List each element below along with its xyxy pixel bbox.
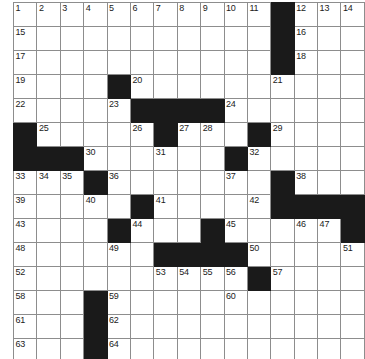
- crossword-cell[interactable]: 32: [247, 147, 270, 171]
- crossword-cell[interactable]: [341, 99, 365, 123]
- crossword-cell[interactable]: 30: [84, 147, 107, 171]
- crossword-cell[interactable]: [60, 27, 83, 51]
- crossword-cell[interactable]: 56: [224, 267, 247, 291]
- crossword-cell[interactable]: 63: [14, 339, 37, 359]
- crossword-cell[interactable]: [130, 339, 153, 359]
- crossword-cell[interactable]: [318, 27, 341, 51]
- crossword-cell[interactable]: [341, 75, 365, 99]
- crossword-cell[interactable]: 9: [201, 3, 224, 27]
- crossword-cell[interactable]: [107, 147, 130, 171]
- crossword-cell[interactable]: 44: [130, 219, 153, 243]
- crossword-cell[interactable]: [341, 51, 365, 75]
- crossword-cell[interactable]: [154, 75, 177, 99]
- crossword-cell[interactable]: [341, 123, 365, 147]
- crossword-cell[interactable]: [318, 267, 341, 291]
- crossword-cell[interactable]: [177, 75, 200, 99]
- crossword-cell[interactable]: 49: [107, 243, 130, 267]
- crossword-cell[interactable]: [60, 195, 83, 219]
- crossword-cell[interactable]: 54: [177, 267, 200, 291]
- crossword-cell[interactable]: 47: [318, 219, 341, 243]
- crossword-cell[interactable]: [318, 243, 341, 267]
- crossword-cell[interactable]: [294, 339, 317, 359]
- crossword-cell[interactable]: 48: [14, 243, 37, 267]
- crossword-cell[interactable]: 6: [130, 3, 153, 27]
- crossword-cell[interactable]: [107, 123, 130, 147]
- crossword-cell[interactable]: 7: [154, 3, 177, 27]
- crossword-cell[interactable]: [318, 339, 341, 359]
- crossword-cell[interactable]: [130, 51, 153, 75]
- crossword-cell[interactable]: [294, 243, 317, 267]
- crossword-cell[interactable]: [84, 99, 107, 123]
- crossword-cell[interactable]: [341, 27, 365, 51]
- crossword-cell[interactable]: [177, 315, 200, 339]
- crossword-cell[interactable]: [37, 243, 60, 267]
- crossword-cell[interactable]: 46: [294, 219, 317, 243]
- crossword-cell[interactable]: [341, 291, 365, 315]
- crossword-cell[interactable]: 50: [247, 243, 270, 267]
- crossword-cell[interactable]: 40: [84, 195, 107, 219]
- crossword-cell[interactable]: 35: [60, 171, 83, 195]
- crossword-cell[interactable]: [60, 123, 83, 147]
- crossword-cell[interactable]: [60, 267, 83, 291]
- crossword-cell[interactable]: [247, 99, 270, 123]
- crossword-cell[interactable]: 25: [37, 123, 60, 147]
- crossword-cell[interactable]: [107, 27, 130, 51]
- crossword-cell[interactable]: [224, 315, 247, 339]
- crossword-cell[interactable]: [247, 339, 270, 359]
- crossword-cell[interactable]: [177, 219, 200, 243]
- crossword-cell[interactable]: [37, 315, 60, 339]
- crossword-cell[interactable]: 27: [177, 123, 200, 147]
- crossword-cell[interactable]: [60, 99, 83, 123]
- crossword-cell[interactable]: 2: [37, 3, 60, 27]
- crossword-cell[interactable]: 43: [14, 219, 37, 243]
- crossword-cell[interactable]: [37, 27, 60, 51]
- crossword-cell[interactable]: 3: [60, 3, 83, 27]
- crossword-cell[interactable]: 31: [154, 147, 177, 171]
- crossword-cell[interactable]: [224, 51, 247, 75]
- crossword-cell[interactable]: 36: [107, 171, 130, 195]
- crossword-cell[interactable]: [154, 315, 177, 339]
- crossword-cell[interactable]: 64: [107, 339, 130, 359]
- crossword-cell[interactable]: 22: [14, 99, 37, 123]
- crossword-cell[interactable]: [247, 171, 270, 195]
- crossword-cell[interactable]: [84, 243, 107, 267]
- crossword-cell[interactable]: [201, 27, 224, 51]
- crossword-cell[interactable]: [130, 171, 153, 195]
- crossword-cell[interactable]: [60, 243, 83, 267]
- crossword-cell[interactable]: [60, 315, 83, 339]
- crossword-cell[interactable]: 11: [247, 3, 270, 27]
- crossword-cell[interactable]: 45: [224, 219, 247, 243]
- crossword-cell[interactable]: [201, 171, 224, 195]
- crossword-cell[interactable]: [154, 27, 177, 51]
- crossword-cell[interactable]: [201, 339, 224, 359]
- crossword-cell[interactable]: [294, 99, 317, 123]
- crossword-cell[interactable]: [224, 339, 247, 359]
- crossword-cell[interactable]: [84, 123, 107, 147]
- crossword-cell[interactable]: 53: [154, 267, 177, 291]
- crossword-cell[interactable]: 39: [14, 195, 37, 219]
- crossword-cell[interactable]: [130, 315, 153, 339]
- crossword-cell[interactable]: [318, 99, 341, 123]
- crossword-cell[interactable]: 42: [247, 195, 270, 219]
- crossword-cell[interactable]: 10: [224, 3, 247, 27]
- crossword-cell[interactable]: [177, 291, 200, 315]
- crossword-cell[interactable]: [154, 219, 177, 243]
- crossword-cell[interactable]: [247, 219, 270, 243]
- crossword-cell[interactable]: [60, 51, 83, 75]
- crossword-cell[interactable]: [294, 147, 317, 171]
- crossword-cell[interactable]: 16: [294, 27, 317, 51]
- crossword-cell[interactable]: [271, 339, 294, 359]
- crossword-cell[interactable]: 58: [14, 291, 37, 315]
- crossword-cell[interactable]: [271, 291, 294, 315]
- crossword-cell[interactable]: [84, 51, 107, 75]
- crossword-cell[interactable]: [294, 267, 317, 291]
- crossword-cell[interactable]: 21: [271, 75, 294, 99]
- crossword-cell[interactable]: [318, 315, 341, 339]
- crossword-cell[interactable]: [107, 267, 130, 291]
- crossword-cell[interactable]: [37, 291, 60, 315]
- crossword-cell[interactable]: [247, 291, 270, 315]
- crossword-cell[interactable]: 28: [201, 123, 224, 147]
- crossword-cell[interactable]: [60, 219, 83, 243]
- crossword-cell[interactable]: [341, 171, 365, 195]
- crossword-cell[interactable]: [60, 291, 83, 315]
